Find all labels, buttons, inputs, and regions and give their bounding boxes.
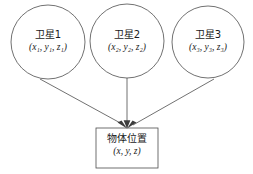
- object-position-title: 物体位置: [96, 134, 158, 145]
- satellite-1-label: 卫星1 (x₁, y₁, z₁): [10, 30, 86, 52]
- edge-sat2-arrowhead-icon: [124, 120, 131, 128]
- satellite-1-coords: (x₁, y₁, z₁): [10, 43, 86, 53]
- diagram-canvas: 卫星1 (x₁, y₁, z₁) 卫星2 (x₂, y₂, z₂) 卫星3 (x…: [0, 0, 253, 174]
- satellite-2-label: 卫星2 (x₂, y₂, z₂): [89, 30, 165, 52]
- object-position-label: 物体位置 (x, y, z): [96, 134, 158, 156]
- satellite-3-title: 卫星3: [170, 30, 246, 41]
- satellite-3-label: 卫星3 (x₃, y₃, z₃): [170, 30, 246, 52]
- satellite-3-coords: (x₃, y₃, z₃): [170, 43, 246, 53]
- object-position-coords: (x, y, z): [96, 147, 158, 157]
- edge-sat3-to-object: [133, 79, 214, 125]
- satellite-2-coords: (x₂, y₂, z₂): [89, 43, 165, 53]
- satellite-2-title: 卫星2: [89, 30, 165, 41]
- edge-sat1-to-object: [40, 79, 124, 125]
- satellite-1-title: 卫星1: [10, 30, 86, 41]
